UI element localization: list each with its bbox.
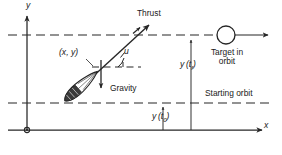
position-leader-line: [86, 59, 93, 66]
thrust-label-arrowhead-icon: [133, 28, 140, 34]
spacecraft-icon: [61, 68, 100, 105]
rocket-trajectory-figure: y x Thrust Gravity (x, y) u Target in or…: [0, 0, 282, 155]
figure-canvas: [0, 0, 282, 155]
initial-altitude-label: y(t0): [152, 112, 169, 124]
target-orbit-body-icon: [217, 26, 235, 44]
target-in-orbit-label: Target in orbit: [204, 48, 250, 67]
target-label-line-2: orbit: [219, 56, 235, 66]
final-altitude-label: y(tf): [180, 60, 196, 72]
gravity-label: Gravity: [110, 84, 137, 93]
initial-altitude-paren-close: ): [167, 111, 170, 121]
control-angle-label: u: [124, 47, 129, 57]
final-altitude-var: y: [180, 59, 184, 69]
initial-altitude-var: y: [152, 111, 156, 121]
thrust-label: Thrust: [137, 9, 161, 18]
y-axis-label: y: [26, 1, 30, 11]
starting-orbit-label: Starting orbit: [205, 89, 252, 98]
position-coordinates-label: (x, y): [59, 48, 78, 58]
x-axis-label: x: [264, 121, 268, 131]
final-altitude-paren-close: ): [193, 59, 196, 69]
